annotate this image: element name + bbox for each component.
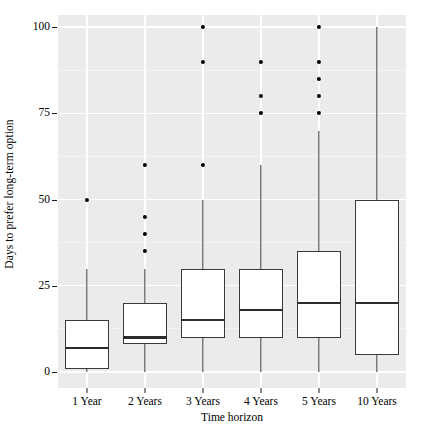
y-tick-label-group: 0255075100 xyxy=(8,0,50,438)
whisker-lower xyxy=(260,338,261,373)
outlier-point xyxy=(317,59,321,63)
whisker-upper xyxy=(144,269,145,304)
outlier-point xyxy=(317,111,321,115)
x-tick-mark-1 xyxy=(145,388,146,393)
box-plot-group xyxy=(116,15,174,388)
outlier-point xyxy=(259,94,263,98)
x-tick-mark-group xyxy=(58,388,406,394)
x-tick-label-group: 1 Year2 Years3 Years4 Years5 Years10 Yea… xyxy=(58,395,406,411)
box-plot-group xyxy=(348,15,406,388)
outlier-point xyxy=(317,25,321,29)
y-tick-label-50: 50 xyxy=(10,194,50,206)
median-line xyxy=(239,309,283,311)
plot-panel xyxy=(58,15,406,388)
whisker-upper xyxy=(260,165,261,269)
x-tick-mark-2 xyxy=(203,388,204,393)
median-line xyxy=(65,347,109,349)
box-iqr-rect xyxy=(355,200,399,355)
outlier-point xyxy=(85,197,89,201)
outlier-point xyxy=(317,77,321,81)
median-line xyxy=(297,302,341,304)
outlier-point xyxy=(143,215,147,219)
whisker-lower xyxy=(376,355,377,372)
outlier-point xyxy=(201,163,205,167)
x-tick-mark-0 xyxy=(87,388,88,393)
whisker-lower xyxy=(86,369,87,372)
median-line xyxy=(181,319,225,321)
box-plot-group xyxy=(232,15,290,388)
x-tick-label-2-years: 2 Years xyxy=(128,395,162,408)
x-tick-mark-4 xyxy=(319,388,320,393)
outlier-point xyxy=(317,94,321,98)
y-tick-label-0: 0 xyxy=(10,366,50,378)
x-axis-title: Time horizon xyxy=(58,411,406,423)
whisker-upper xyxy=(318,131,319,252)
whisker-lower xyxy=(144,344,145,372)
box-plot-group xyxy=(290,15,348,388)
x-tick-label-5-years: 5 Years xyxy=(302,395,336,408)
outlier-point xyxy=(143,232,147,236)
outlier-point xyxy=(143,249,147,253)
y-tick-mark-0 xyxy=(52,372,57,373)
x-tick-mark-5 xyxy=(377,388,378,393)
x-tick-label-3-years: 3 Years xyxy=(186,395,220,408)
box-plot-group xyxy=(174,15,232,388)
y-tick-label-25: 25 xyxy=(10,280,50,292)
y-tick-mark-75 xyxy=(52,113,57,114)
box-iqr-rect xyxy=(239,269,283,338)
x-tick-label-4-years: 4 Years xyxy=(244,395,278,408)
median-line xyxy=(355,302,399,304)
outlier-point xyxy=(143,163,147,167)
y-tick-mark-25 xyxy=(52,286,57,287)
whisker-upper xyxy=(86,269,87,321)
whisker-upper xyxy=(202,200,203,269)
box-iqr-rect xyxy=(297,251,341,337)
y-tick-label-75: 75 xyxy=(10,108,50,120)
outlier-point xyxy=(201,25,205,29)
whisker-lower xyxy=(202,338,203,373)
outlier-point xyxy=(201,59,205,63)
x-tick-label-10-years: 10 Years xyxy=(357,395,397,408)
box-iqr-rect xyxy=(181,269,225,338)
box-plot-group xyxy=(58,15,116,388)
whisker-lower xyxy=(318,338,319,373)
box-iqr-rect xyxy=(65,320,109,368)
y-tick-label-100: 100 xyxy=(10,21,50,33)
boxplot-chart: Days to prefer long-term option 02550751… xyxy=(0,0,428,438)
x-tick-mark-3 xyxy=(261,388,262,393)
whisker-upper xyxy=(376,27,377,200)
outlier-point xyxy=(259,59,263,63)
x-tick-label-1-year: 1 Year xyxy=(72,395,101,408)
outlier-point xyxy=(259,111,263,115)
y-tick-mark-100 xyxy=(52,27,57,28)
median-line xyxy=(123,336,167,338)
y-tick-mark-50 xyxy=(52,200,57,201)
